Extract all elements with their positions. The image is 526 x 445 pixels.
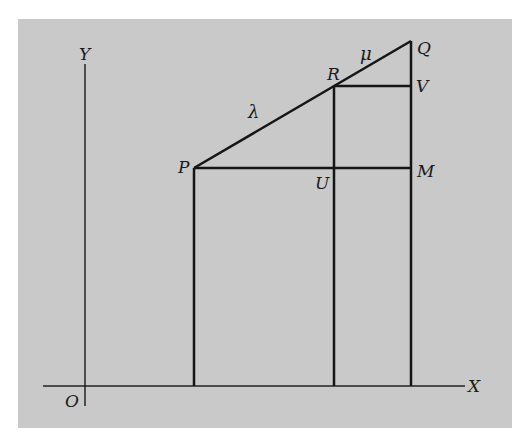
label-point-p: P (177, 157, 190, 177)
label-point-r: R (326, 64, 340, 84)
label-point-q: Q (417, 38, 431, 58)
label-point-v: V (416, 76, 430, 96)
label-lambda: λ (247, 101, 259, 122)
label-origin: O (65, 391, 79, 411)
label-point-m: M (416, 161, 435, 181)
label-mu: μ (360, 43, 372, 64)
label-x-axis: X (466, 376, 481, 396)
label-point-u: U (315, 173, 330, 193)
segment-pq (194, 41, 411, 168)
label-y-axis: Y (79, 44, 92, 64)
section-formula-diagram: Y X O P Q R V M U λ μ (0, 0, 526, 445)
